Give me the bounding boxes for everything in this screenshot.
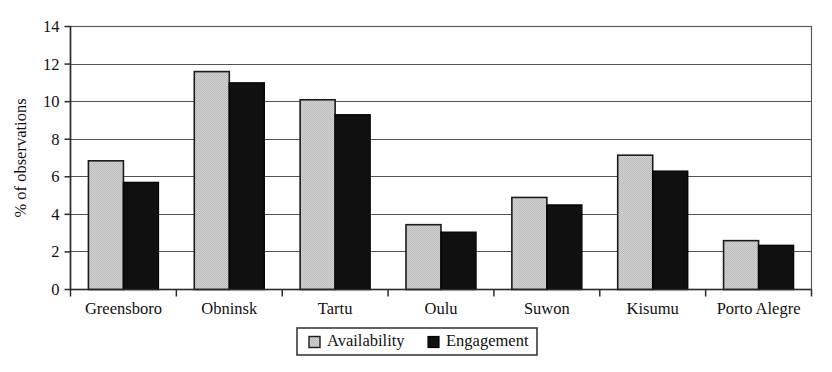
category-labels: GreensboroObninskTartuOuluSuwonKisumuPor…	[85, 299, 801, 318]
y-tick-label-10: 10	[43, 92, 60, 111]
bar-availability-suwon	[512, 197, 547, 289]
bar-availability-kisumu	[618, 155, 653, 289]
legend-swatch-availability	[309, 337, 320, 348]
bars-layer	[88, 72, 793, 290]
chart-legend: AvailabilityEngagement	[297, 328, 537, 355]
x-label-obninsk: Obninsk	[201, 299, 258, 318]
bar-engagement-tartu	[335, 115, 370, 290]
bar-engagement-kisumu	[653, 171, 688, 289]
y-tick-label-4: 4	[51, 205, 59, 224]
y-tick-label-12: 12	[43, 55, 60, 74]
legend-label-availability: Availability	[327, 331, 405, 350]
bar-engagement-greensboro	[123, 182, 158, 289]
y-tick-label-8: 8	[51, 130, 59, 149]
y-tick-label-2: 2	[51, 242, 59, 261]
bar-availability-greensboro	[88, 161, 123, 290]
bar-availability-porto-alegre	[724, 241, 759, 290]
bar-availability-oulu	[406, 225, 441, 290]
bar-availability-tartu	[300, 100, 335, 290]
chart-canvas: 02468101214 GreensboroObninskTartuOuluSu…	[0, 0, 832, 372]
y-tick-label-6: 6	[51, 167, 59, 186]
y-tick-label-0: 0	[51, 280, 59, 299]
x-label-oulu: Oulu	[425, 299, 458, 318]
legend-swatch-engagement	[428, 337, 439, 348]
legend-label-engagement: Engagement	[446, 331, 529, 350]
x-label-tartu: Tartu	[318, 299, 353, 318]
x-label-kisumu: Kisumu	[627, 299, 679, 318]
bar-engagement-obninsk	[229, 83, 264, 290]
y-axis: 02468101214	[43, 17, 71, 299]
bar-availability-obninsk	[194, 72, 229, 290]
bar-engagement-suwon	[547, 205, 582, 290]
x-label-greensboro: Greensboro	[85, 299, 162, 318]
bar-engagement-oulu	[441, 232, 476, 289]
y-tick-label-14: 14	[43, 17, 60, 36]
x-label-suwon: Suwon	[524, 299, 570, 318]
x-axis	[71, 290, 812, 297]
x-label-porto-alegre: Porto Alegre	[717, 299, 801, 318]
y-axis-title: % of observations	[11, 98, 30, 217]
bar-engagement-porto-alegre	[759, 245, 794, 289]
bar-chart: 02468101214 GreensboroObninskTartuOuluSu…	[0, 0, 832, 372]
